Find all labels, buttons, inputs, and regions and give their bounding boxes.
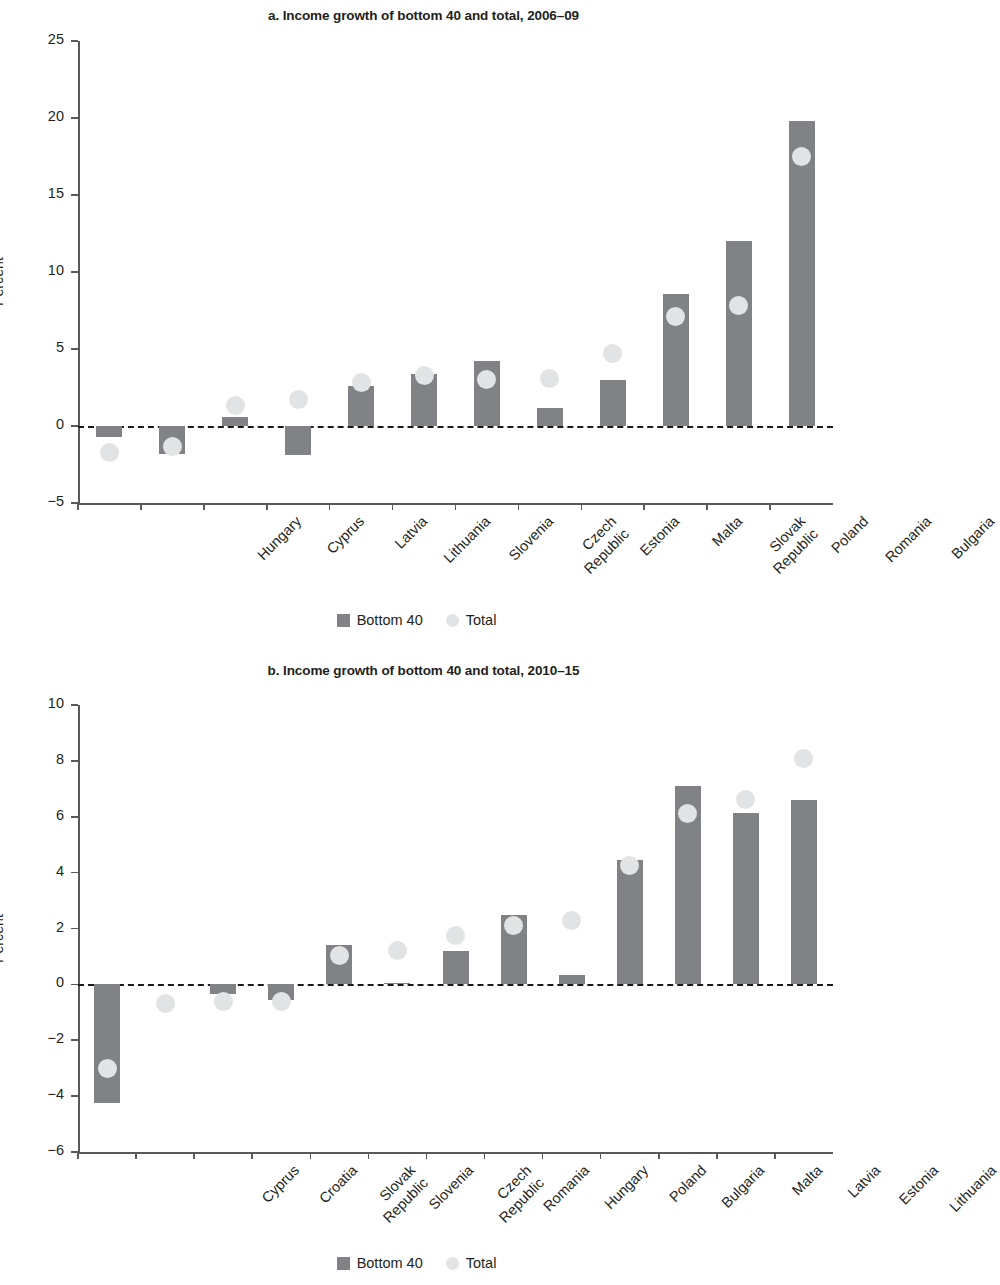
y-tick-label: −4 (16, 1086, 64, 1102)
x-tick-mark (426, 1152, 428, 1159)
data-point-marker (736, 790, 755, 809)
data-point-marker (562, 911, 581, 930)
y-tick-label: 8 (16, 751, 64, 767)
bar (791, 800, 817, 984)
x-tick-label-line: Bulgaria (865, 513, 998, 646)
legend-label-total: Total (466, 1255, 497, 1271)
y-tick-mark (71, 984, 78, 986)
data-point-marker (446, 926, 465, 945)
x-tick-mark (251, 1152, 253, 1159)
x-tick-label: Bulgaria (865, 513, 998, 646)
y-axis-line (78, 705, 80, 1152)
y-tick-label: 10 (16, 695, 64, 711)
legend-circle-icon (446, 1257, 459, 1270)
data-point-marker (272, 992, 291, 1011)
x-tick-mark (600, 1152, 602, 1159)
y-tick-label: 0 (16, 974, 64, 990)
data-point-marker (98, 1059, 117, 1078)
y-tick-label: −6 (16, 1142, 64, 1158)
x-tick-mark (193, 1152, 195, 1159)
y-tick-mark (71, 704, 78, 706)
data-point-marker (156, 994, 175, 1013)
y-tick-mark (71, 928, 78, 930)
y-tick-mark (71, 816, 78, 818)
panel-b-legend: Bottom 40 Total (0, 1255, 847, 1271)
y-tick-mark (71, 872, 78, 874)
legend-item-total: Total (446, 1255, 497, 1271)
x-axis-line (78, 1152, 833, 1154)
y-tick-mark (71, 1095, 78, 1097)
x-tick-mark (716, 1152, 718, 1159)
x-tick-mark (484, 1152, 486, 1159)
legend-square-icon (337, 1257, 350, 1270)
bar (559, 975, 585, 985)
x-tick-mark (658, 1152, 660, 1159)
x-tick-mark (542, 1152, 544, 1159)
y-tick-label: 2 (16, 919, 64, 935)
x-tick-mark (368, 1152, 370, 1159)
x-tick-mark (774, 1152, 776, 1159)
y-axis-title: Percent (0, 914, 6, 963)
legend-label-bottom40: Bottom 40 (357, 1255, 423, 1271)
bar (617, 860, 643, 984)
y-tick-label: −2 (16, 1030, 64, 1046)
data-point-marker (214, 992, 233, 1011)
x-tick-mark (135, 1152, 137, 1159)
bar (443, 951, 469, 985)
y-tick-mark (71, 760, 78, 762)
data-point-marker (794, 749, 813, 768)
bar (384, 983, 410, 984)
x-tick-mark (77, 1152, 79, 1159)
y-tick-label: 4 (16, 863, 64, 879)
y-tick-mark (71, 1039, 78, 1041)
bar (733, 813, 759, 985)
y-tick-label: 6 (16, 807, 64, 823)
data-point-marker (388, 941, 407, 960)
data-point-marker (330, 946, 349, 965)
x-tick-mark (310, 1152, 312, 1159)
bar (94, 984, 120, 1103)
zero-reference-line (78, 984, 833, 986)
legend-item-bottom40: Bottom 40 (337, 1255, 423, 1271)
